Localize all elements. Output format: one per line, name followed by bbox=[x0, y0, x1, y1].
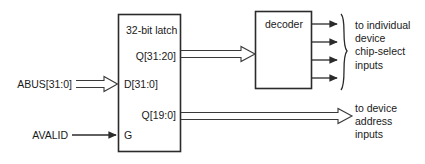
decoder-title: decoder bbox=[265, 18, 303, 31]
latch-port-q-low: Q[19:0] bbox=[118, 109, 176, 122]
block-diagram: 32-bit latch Q[31:20] D[31:0] Q[19:0] G … bbox=[0, 0, 425, 164]
latch-port-q-high: Q[31:20] bbox=[118, 50, 176, 63]
qhigh-bus-arrow bbox=[181, 47, 255, 62]
latch-port-d: D[31:0] bbox=[124, 78, 158, 91]
decoder-output-arrows bbox=[311, 24, 337, 78]
latch-port-g: G bbox=[124, 129, 132, 142]
output-label-device-address: to device address inputs bbox=[355, 102, 425, 142]
chip-select-brace bbox=[341, 14, 347, 90]
abus-bus-arrow bbox=[76, 77, 118, 92]
qlow-bus-arrow bbox=[181, 109, 352, 124]
input-label-abus: ABUS[31:0] bbox=[0, 78, 72, 91]
latch-title: 32-bit latch bbox=[126, 24, 177, 37]
input-label-avalid: AVALID bbox=[0, 129, 68, 142]
output-label-chip-select: to individual device chip-select inputs bbox=[355, 19, 425, 72]
